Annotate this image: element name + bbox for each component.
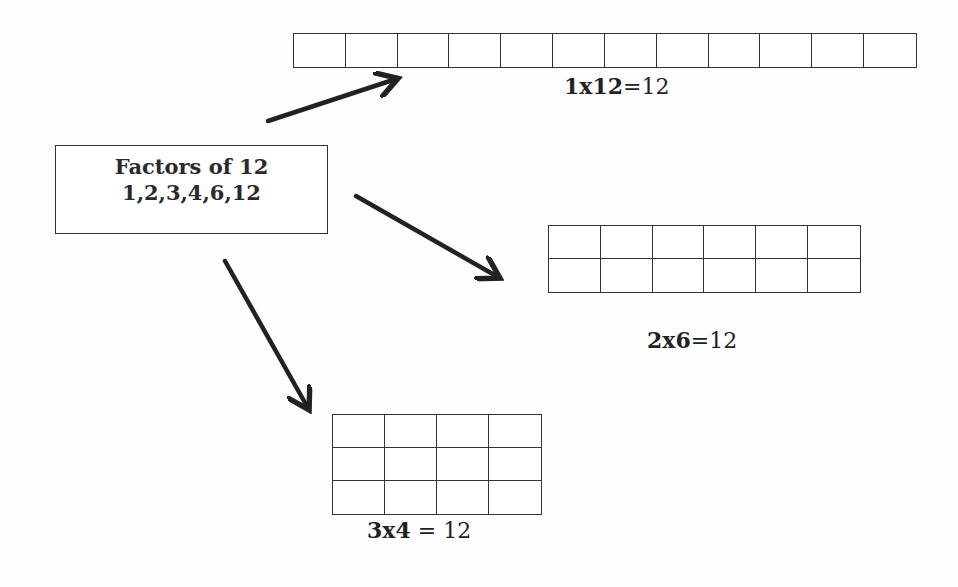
equation-2x6-rhs: =12 [691, 328, 737, 353]
array-1x12 [293, 33, 917, 68]
grid-cell [653, 226, 705, 259]
equation-2x6: 2x6=12 [647, 327, 737, 353]
arrow-to-2x6-icon [356, 196, 498, 277]
grid-cell [704, 259, 756, 292]
grid-cell [333, 481, 385, 514]
grid-cell [489, 481, 541, 514]
grid-cell [489, 415, 541, 448]
grid-cell [346, 34, 398, 67]
grid-cell [601, 226, 653, 259]
equation-3x4-lhs: 3x4 [367, 517, 411, 543]
grid-cell [601, 259, 653, 292]
array-3x4 [332, 414, 542, 515]
grid-cell [812, 34, 864, 67]
grid-cell [704, 226, 756, 259]
grid-cell [294, 34, 346, 67]
grid-cell [398, 34, 450, 67]
equation-1x12-rhs: =12 [623, 74, 669, 99]
grid-cell [437, 448, 489, 481]
equation-2x6-lhs: 2x6 [647, 327, 691, 353]
grid-cell [756, 226, 808, 259]
grid-cell [449, 34, 501, 67]
grid-cell [709, 34, 761, 67]
grid-cell [653, 259, 705, 292]
grid-cell [808, 226, 860, 259]
equation-1x12: 1x12=12 [564, 73, 669, 99]
array-2x6 [548, 225, 861, 293]
grid-cell [553, 34, 605, 67]
grid-cell [489, 448, 541, 481]
grid-cell [760, 34, 812, 67]
grid-cell [605, 34, 657, 67]
factors-list: 1,2,3,4,6,12 [56, 180, 327, 206]
grid-cell [864, 34, 916, 67]
grid-cell [549, 259, 601, 292]
grid-cell [808, 259, 860, 292]
equation-1x12-lhs: 1x12 [564, 73, 623, 99]
grid-cell [385, 415, 437, 448]
factors-title: Factors of 12 [56, 154, 327, 180]
grid-cell [501, 34, 553, 67]
arrow-to-3x4-icon [225, 261, 308, 408]
factors-box: Factors of 12 1,2,3,4,6,12 [55, 145, 328, 234]
equation-3x4: 3x4 = 12 [367, 517, 471, 543]
equation-3x4-rhs: = 12 [411, 518, 471, 543]
grid-cell [756, 259, 808, 292]
arrow-to-1x12-icon [268, 79, 396, 121]
grid-cell [549, 226, 601, 259]
diagram-canvas: Factors of 12 1,2,3,4,6,12 1x12=12 2x6=1… [0, 0, 958, 587]
grid-cell [437, 481, 489, 514]
grid-cell [385, 448, 437, 481]
grid-cell [437, 415, 489, 448]
grid-cell [385, 481, 437, 514]
grid-cell [657, 34, 709, 67]
grid-cell [333, 448, 385, 481]
grid-cell [333, 415, 385, 448]
